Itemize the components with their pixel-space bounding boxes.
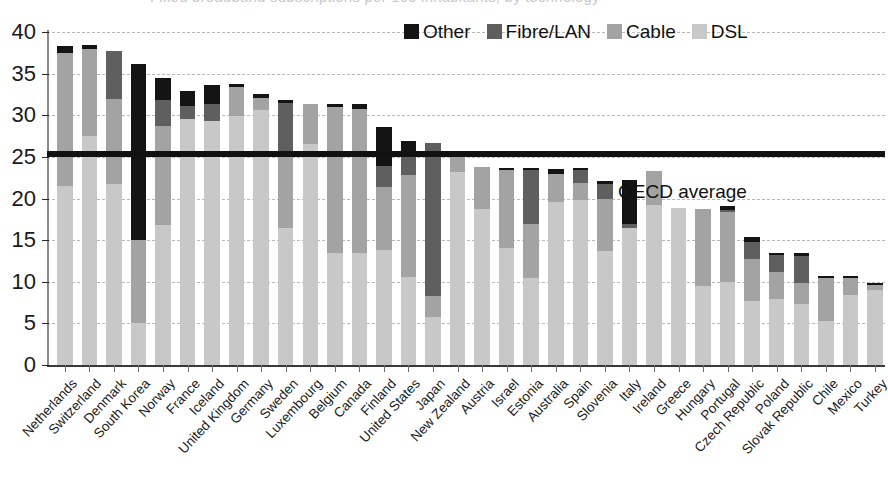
bar-segment-cable [57,53,73,186]
legend-item-other: Other [404,22,471,41]
bar-segment-cable [106,99,122,185]
bar-segment-cable [82,49,98,136]
bar-segment-fibre-lan [180,106,196,119]
bar-segment-cable [303,104,319,143]
bar-segment-cable [499,170,515,248]
bar-estonia [523,168,539,365]
plot-area [47,32,885,365]
legend-label-dsl: DSL [711,22,748,41]
bar-segment-cable [327,107,343,254]
legend-item-fibre: Fibre/LAN [487,22,592,41]
bar-segment-fibre-lan [204,104,220,121]
bar-segment-cable [769,272,785,299]
bar-segment-cable [425,296,441,317]
legend-item-dsl: DSL [692,22,748,41]
bar-norway [155,78,171,365]
bar-segment-other [204,85,220,104]
bar-segment-other [376,127,392,166]
bar-segment-cable [352,109,368,254]
bar-segment-fibre-lan [744,242,760,259]
bar-segment-dsl [57,186,73,365]
oecd-average-label: OECD average [618,181,747,203]
y-tick-label: 15 [2,229,36,251]
bar-segment-fibre-lan [794,256,810,283]
bar-segment-cable [278,153,294,229]
bar-segment-cable [474,167,490,209]
y-tick-label: 20 [2,188,36,210]
bar-segment-cable [548,174,564,202]
bar-segment-cable [131,240,147,323]
bar-segment-fibre-lan [425,143,441,296]
y-tick-label: 5 [2,312,36,334]
bar-segment-dsl [303,144,319,365]
legend-swatch-cable [607,24,622,39]
legend-label-cable: Cable [626,22,676,41]
chart-legend: OtherFibre/LANCableDSL [404,22,748,41]
bar-segment-other [155,78,171,100]
bar-segment-cable [376,187,392,250]
oecd-average-line [47,151,885,157]
bar-italy [622,180,638,365]
bar-segment-dsl [622,228,638,365]
bar-finland [376,127,392,365]
bar-segment-cable [253,98,269,110]
bar-segment-fibre-lan [769,255,785,272]
bar-denmark [106,51,122,365]
bar-iceland [204,85,220,365]
bar-segment-cable [794,283,810,304]
bar-united-states [401,141,417,365]
bar-austria [474,167,490,365]
bar-japan [425,143,441,365]
x-tick-mark [65,365,66,372]
legend-item-cable: Cable [607,22,676,41]
bar-segment-cable [744,259,760,301]
y-tick-label: 25 [2,146,36,168]
bar-greece [671,208,687,365]
bar-segment-fibre-lan [523,170,539,224]
y-tick-mark [42,365,49,366]
bar-switzerland [82,45,98,365]
legend-label-fibre: Fibre/LAN [506,22,592,41]
bar-portugal [720,206,736,365]
bar-segment-cable [401,175,417,277]
bar-segment-dsl [82,136,98,365]
bar-segment-fibre-lan [106,51,122,98]
bar-segment-fibre-lan [278,103,294,153]
bar-slovenia [597,181,613,365]
legend-label-other: Other [423,22,471,41]
bar-segment-fibre-lan [155,100,171,126]
bar-segment-dsl [253,110,269,365]
y-tick-label: 30 [2,104,36,126]
bar-australia [548,169,564,365]
bar-segment-fibre-lan [597,184,613,199]
bar-segment-dsl [474,209,490,366]
bar-segment-cable [843,278,859,295]
bar-segment-cable [695,209,711,286]
bar-segment-cable [720,212,736,282]
bar-segment-dsl [671,208,687,365]
bar-hungary [695,209,711,365]
bar-united-kingdom [229,84,245,365]
y-tick-label: 10 [2,271,36,293]
bar-segment-cable [155,126,171,225]
bar-segment-dsl [548,202,564,365]
bar-south-korea [131,64,147,365]
bar-segment-dsl [573,200,589,365]
legend-swatch-fibre [487,24,502,39]
bar-segment-cable [523,224,539,278]
faint-chart-title: Fixed broadband subscriptions per 100 in… [0,0,888,9]
bar-belgium [327,104,343,365]
bar-segment-fibre-lan [376,166,392,187]
bar-segment-other [180,91,196,106]
bar-segment-cable [597,199,613,251]
x-axis-category-labels: NetherlandsSwitzerlandDenmarkSouth Korea… [0,372,888,498]
legend-swatch-other [404,24,419,39]
y-tick-label: 40 [2,21,36,43]
bar-segment-other [57,46,73,53]
bar-segment-cable [573,183,589,200]
bar-spain [573,168,589,365]
y-tick-label: 35 [2,63,36,85]
bar-segment-fibre-lan [401,156,417,175]
bar-segment-cable [229,87,245,116]
bar-germany [253,94,269,365]
